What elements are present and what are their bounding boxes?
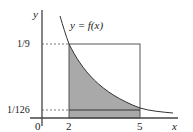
- x-axis-label: x: [172, 121, 177, 132]
- x-tick-0: 0: [35, 121, 41, 132]
- y-tick-1-126: 1/126: [7, 105, 30, 115]
- y-axis-label: y: [33, 9, 38, 20]
- x-tick-5: 5: [137, 121, 143, 132]
- area-under-curve-diagram: y y = f(x) 1/9 1/126 0 2 5 x: [0, 0, 193, 132]
- y-tick-1-9: 1/9: [17, 39, 30, 49]
- shaded-region: [69, 44, 140, 118]
- function-label: y = f(x): [70, 20, 103, 31]
- x-tick-2: 2: [66, 121, 72, 132]
